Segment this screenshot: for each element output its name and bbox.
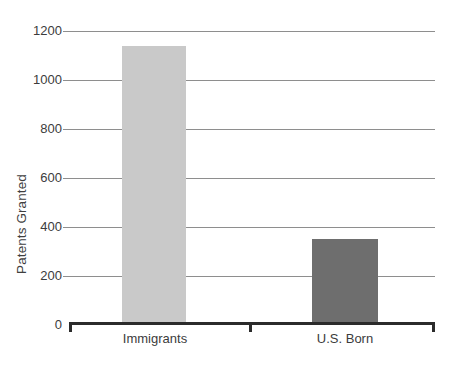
y-axis-tick-mark	[63, 31, 71, 32]
y-axis-tick-label-text: 200	[18, 269, 62, 282]
y-axis-tick-label: 1000	[16, 73, 62, 86]
x-axis-tick-right	[432, 322, 435, 332]
y-axis-tick-label: 200	[16, 269, 62, 282]
x-axis-tick-left	[69, 322, 72, 332]
bar-chart: Patents Granted 120010008006004002000 Im…	[0, 0, 456, 366]
y-axis-tick-mark	[63, 80, 71, 81]
y-axis-tick-label-text: 0	[18, 318, 62, 331]
y-axis-tick-label: 800	[16, 122, 62, 135]
y-axis-tick-label: 1200	[16, 24, 62, 37]
x-axis-category-label: U.S. Born	[280, 330, 410, 348]
bar-immigrants	[122, 46, 186, 325]
y-axis-tick-label: 0	[16, 318, 62, 331]
x-axis-tick-middle	[249, 322, 252, 332]
gridline	[70, 31, 435, 32]
y-axis-tick-label: 600	[16, 171, 62, 184]
y-axis-tick-label-text: 800	[18, 122, 62, 135]
y-axis-tick-mark	[63, 276, 71, 277]
y-axis-tick-mark	[63, 178, 71, 179]
bar-u-s-born	[312, 239, 378, 325]
y-axis-tick-mark	[63, 227, 71, 228]
x-axis-line	[69, 322, 435, 325]
x-axis-category-label: Immigrants	[90, 330, 220, 348]
y-axis-tick-mark	[63, 129, 71, 130]
y-axis-tick-label-text: 600	[18, 171, 62, 184]
y-axis-tick-label-text: 1200	[18, 24, 62, 37]
y-axis-tick-label-text: 1000	[18, 73, 62, 86]
y-axis-tick-label: 400	[16, 220, 62, 233]
y-axis-tick-label-text: 400	[18, 220, 62, 233]
